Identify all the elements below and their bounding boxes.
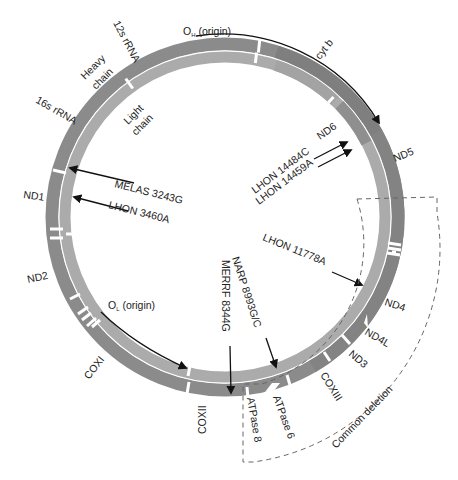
- lhon11778-arrow[interactable]: [332, 272, 362, 285]
- gene-label-nd6: ND6: [314, 120, 338, 142]
- gene-label-coxii: COXII: [196, 405, 208, 434]
- mutation-label-merrf: MERRF 8344G: [220, 260, 232, 332]
- lhon14459-arrow[interactable]: [318, 150, 351, 167]
- gene-label-coxi: COXI: [81, 354, 106, 382]
- gene-label-12s: 12s rRNA: [111, 18, 143, 64]
- gene-label-nd2: ND2: [26, 269, 49, 285]
- narp-arrow[interactable]: [266, 338, 276, 367]
- mutation-label-lhon3460: LHON 3460A: [108, 198, 172, 225]
- gene-label-nd1: ND1: [23, 188, 46, 203]
- origin-heavy-label: OH (origin): [183, 25, 231, 38]
- gene-label-nd4l: ND4L: [363, 325, 392, 349]
- lhon14484-arrow[interactable]: [314, 142, 347, 159]
- gene-label-atpase6: ATPase 6: [271, 394, 298, 441]
- gene-label-cytb: cyt b: [312, 36, 335, 61]
- gene-label-16s: 16s rRNA: [34, 93, 79, 126]
- mutation-label-narp: NARP 8993G/C: [230, 255, 264, 329]
- gene-label-nd5: ND5: [391, 145, 415, 164]
- origin-light-label: OL (origin): [108, 299, 155, 312]
- gene-label-atpase8: ATPase 8: [245, 396, 265, 443]
- mtdna-diagram: 12s rRNA 16s rRNA ND1 ND2 COXI COXII ATP…: [0, 0, 458, 480]
- gene-label-nd4: ND4: [383, 295, 407, 313]
- gene-label-nd3: ND3: [347, 347, 371, 370]
- gene-label-coxiii: COXIII: [318, 370, 345, 403]
- mutation-label-lhon11778: LHON 11778A: [261, 231, 328, 267]
